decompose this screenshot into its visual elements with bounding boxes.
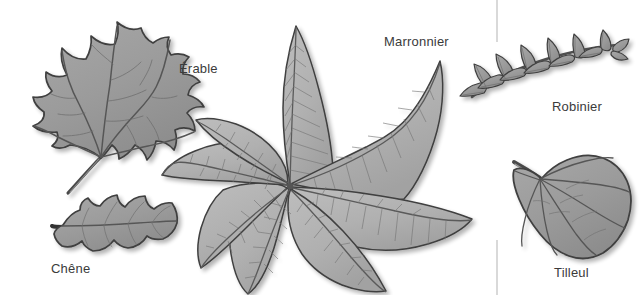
leaf-tilleul [513, 156, 631, 259]
label-robinier: Robinier [552, 99, 602, 114]
erable-blade [33, 22, 204, 160]
leaf-illustration-canvas [0, 0, 643, 295]
erable-petiole-hl [70, 159, 99, 192]
leaf-plate-figure: Érable Chêne Marronnier Robinier Tilleul [0, 0, 643, 295]
label-chene: Chêne [51, 261, 90, 276]
label-tilleul: Tilleul [554, 265, 589, 280]
marronnier-leaflet-top [283, 26, 333, 185]
leaf-robinier [460, 30, 629, 97]
marronnier-node [287, 183, 293, 189]
tilleul-blade [513, 156, 631, 259]
leaf-chene [52, 195, 177, 251]
label-marronnier: Marronnier [384, 34, 449, 49]
label-erable: Érable [179, 61, 218, 76]
